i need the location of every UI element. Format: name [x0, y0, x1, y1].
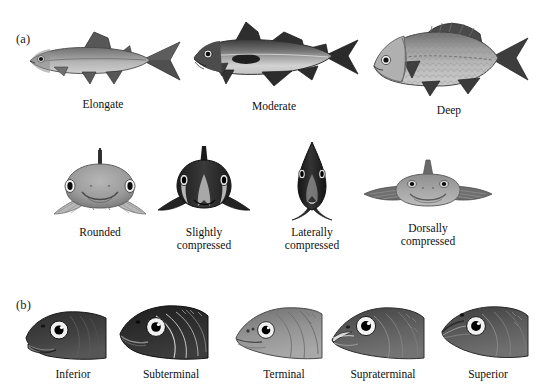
mouth-position-superior-caption: Superior [468, 368, 508, 381]
body-shape-elongate-caption: Elongate [83, 98, 124, 111]
mouth-position-supraterminal-caption: Supraterminal [350, 368, 415, 381]
subterminal-mouth-head-illustration [116, 300, 226, 366]
laterally-compressed-cross-section-illustration [266, 140, 358, 224]
mouth-position-inferior-caption: Inferior [55, 368, 90, 381]
terminal-mouth-head-illustration [232, 300, 336, 366]
mouth-position-subterminal: Subterminal [116, 300, 226, 381]
cross-section-slightly-compressed: Slightly compressed [152, 144, 256, 251]
supraterminal-mouth-head-illustration [326, 300, 440, 366]
mouth-position-superior: Superior [438, 300, 538, 381]
inferior-mouth-head-illustration [22, 304, 124, 366]
body-shape-deep-caption: Deep [437, 104, 461, 117]
body-shape-elongate: Elongate [20, 24, 186, 111]
deep-fish-illustration [364, 12, 534, 102]
body-shape-moderate: Moderate [186, 14, 362, 113]
cross-section-rounded: Rounded [44, 146, 156, 239]
body-shape-moderate-caption: Moderate [252, 100, 296, 113]
cross-section-slightly-compressed-caption: Slightly compressed [177, 226, 231, 251]
cross-section-dorsally-compressed: Dorsally compressed [360, 158, 496, 247]
mouth-position-inferior: Inferior [22, 304, 124, 381]
mouth-position-terminal-caption: Terminal [263, 368, 304, 381]
mouth-position-terminal: Terminal [232, 300, 336, 381]
superior-mouth-head-illustration [438, 300, 538, 366]
elongate-fish-illustration [20, 24, 186, 96]
dorsally-compressed-cross-section-illustration [360, 158, 496, 220]
cross-section-dorsally-compressed-caption: Dorsally compressed [401, 222, 455, 247]
moderate-fish-illustration [186, 14, 362, 98]
cross-section-laterally-compressed-caption: Laterally compressed [285, 226, 339, 251]
fish-morphology-figure: (a) [0, 0, 538, 392]
mouth-position-subterminal-caption: Subterminal [143, 368, 199, 381]
cross-section-laterally-compressed: Laterally compressed [266, 140, 358, 251]
cross-section-rounded-caption: Rounded [79, 226, 121, 239]
slightly-compressed-cross-section-illustration [152, 144, 256, 224]
rounded-cross-section-illustration [44, 146, 156, 224]
mouth-position-supraterminal: Supraterminal [326, 300, 440, 381]
body-shape-deep: Deep [364, 12, 534, 117]
